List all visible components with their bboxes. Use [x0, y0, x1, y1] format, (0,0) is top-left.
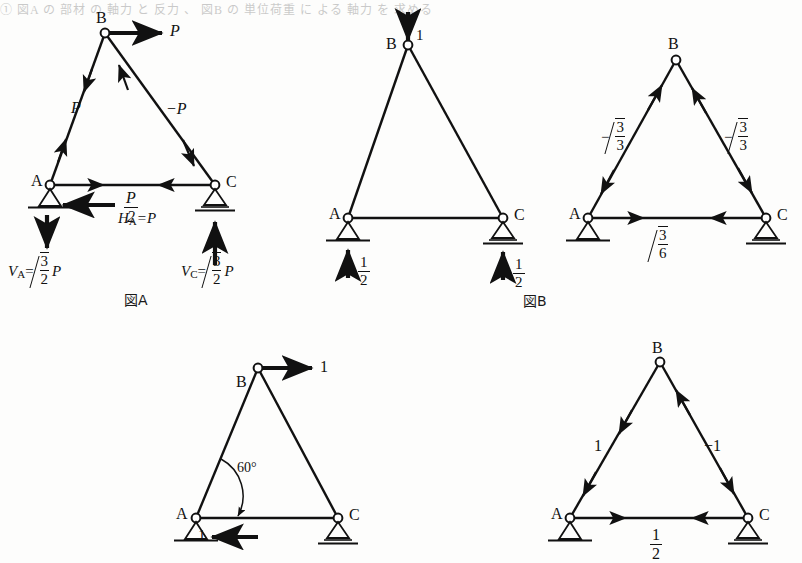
fig-c-right-node-label-b: B: [652, 340, 663, 356]
fig-c-left-truss: [174, 364, 358, 544]
fig-b-caption: 図B: [523, 290, 547, 310]
fig-b-left-truss: [326, 12, 523, 280]
fig-a-member-ab-force: P: [71, 100, 81, 116]
va-symbol: V: [8, 263, 17, 279]
fig-c-left-angle-label: 60°: [237, 461, 257, 475]
fig-c-right-member-ab-force: 1: [594, 438, 602, 454]
fig-b-left-node-label-c: C: [514, 207, 525, 223]
va-denominator: 2: [39, 271, 51, 288]
vc-tail: P: [222, 263, 233, 279]
fig-a-member-bc-force: −P: [166, 101, 187, 117]
fig-b-vc-num: 1: [513, 256, 525, 274]
va-subscript: A: [17, 268, 25, 280]
fig-b-right-truss: [566, 56, 786, 244]
fig-b-right-node-label-a: A: [569, 206, 581, 222]
fig-b-left-reaction-va-label: 12: [358, 254, 370, 290]
fig-b-left-reaction-vc-label: 12: [513, 256, 525, 292]
fig-b-left-node-label-b: B: [386, 36, 397, 52]
vc-denominator: 2: [211, 271, 223, 288]
fig-a-node-label-b: B: [96, 10, 107, 26]
ac-den: 6: [657, 245, 669, 262]
fig-a-ac-numerator: P: [124, 189, 138, 208]
fig-c-left-node-label-c: C: [349, 507, 360, 523]
fig-b-right-node-label-c: C: [777, 207, 788, 223]
va-numerator: 3: [40, 252, 50, 271]
fig-b-right-member-ab-force: −33: [601, 118, 626, 155]
ac-num: 3: [658, 226, 668, 245]
va-tail: P: [50, 263, 61, 279]
fig-b-left-load-label: 1: [416, 28, 424, 43]
vc-symbol: V: [181, 263, 190, 279]
fig-a-node-label-c: C: [226, 174, 237, 190]
fig-a-reaction-ha-label: HA=P: [118, 211, 156, 227]
fig-b-right-member-bc-force: −33: [724, 118, 749, 155]
fig-c-right-member-ac-force: 12: [650, 526, 662, 563]
ha-subscript: A: [129, 215, 137, 227]
fig-a-reaction-vc-label: VC=32P: [181, 252, 234, 289]
fig-c-left-node-label-a: A: [176, 506, 188, 522]
ha-value: =P: [137, 210, 156, 226]
ab-den: 3: [614, 137, 626, 154]
fig-c-right-member-bc-force: −1: [704, 438, 721, 454]
fig-c-right-node-label-c: C: [759, 507, 770, 523]
fig-a-node-label-a: A: [31, 173, 43, 189]
vc-subscript: C: [190, 268, 197, 280]
fig-c-left-load-label: 1: [320, 359, 328, 375]
fig-c-right-truss: [548, 358, 768, 544]
fig-c-right-node-label-a: A: [551, 506, 563, 522]
fig-c-left-node-label-b: B: [236, 374, 247, 390]
fig-b-right-member-ac-force: 36: [652, 226, 669, 263]
fig-b-va-num: 1: [358, 254, 370, 272]
c-ac-den: 2: [650, 545, 662, 563]
vc-numerator: 3: [212, 252, 222, 271]
fig-b-left-node-label-a: A: [329, 206, 341, 222]
bc-den: 3: [737, 137, 749, 154]
fig-b-va-den: 2: [358, 272, 370, 289]
ab-num: 3: [615, 118, 625, 137]
fig-a-caption: 図A: [124, 289, 148, 309]
fig-b-vc-den: 2: [513, 274, 525, 291]
fig-a-truss: [28, 29, 235, 265]
ha-symbol: H: [118, 210, 129, 226]
fig-b-right-node-label-b: B: [668, 36, 679, 52]
fig-a-reaction-va-label: VA=32P: [8, 252, 61, 289]
bc-num: 3: [738, 118, 748, 137]
c-ac-num: 1: [650, 526, 662, 545]
fig-a-load-label: P: [170, 23, 180, 39]
fig-c-left-reaction-ha-label: 1: [198, 528, 206, 543]
